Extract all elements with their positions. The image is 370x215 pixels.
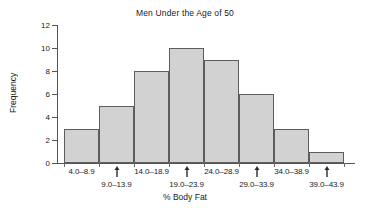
histogram-bar (309, 152, 344, 164)
chart-title: Men Under the Age of 50 (0, 8, 370, 18)
y-tick-label: 10 (41, 44, 50, 53)
y-axis-title: Frequency (6, 53, 20, 133)
bin-pointer-arrow-icon (183, 166, 190, 177)
x-axis-spine (57, 163, 355, 164)
x-tick-mark (99, 163, 100, 167)
histogram-bar (204, 60, 239, 164)
plot-area: 024681012 (57, 25, 355, 163)
y-tick-mark (52, 25, 57, 26)
bin-label: 24.0–28.9 (204, 167, 239, 176)
bin-pointer-arrow-icon (113, 166, 120, 177)
bin-label: 39.0–43.9 (309, 180, 344, 189)
bin-label: 9.0–13.9 (101, 180, 131, 189)
y-tick-label: 4 (46, 113, 50, 122)
y-axis-spine (57, 25, 58, 163)
y-tick-mark (52, 140, 57, 141)
bin-pointer-arrow-icon (253, 166, 260, 177)
y-tick-label: 0 (46, 159, 50, 168)
bin-label: 29.0–33.9 (239, 180, 274, 189)
histogram-bar (64, 129, 99, 164)
x-axis-title: % Body Fat (0, 192, 370, 202)
histogram-bar (274, 129, 309, 164)
y-tick-mark (52, 71, 57, 72)
histogram-figure: Men Under the Age of 50 Frequency 024681… (0, 0, 370, 215)
y-tick-label: 2 (46, 136, 50, 145)
bin-pointer-arrow-icon (323, 166, 330, 177)
y-tick-mark (52, 163, 57, 164)
histogram-bar (169, 48, 204, 163)
bin-label: 4.0–8.9 (69, 167, 95, 176)
histogram-bar (134, 71, 169, 163)
y-tick-label: 8 (46, 67, 50, 76)
y-tick-mark (52, 48, 57, 49)
histogram-bar (239, 94, 274, 163)
bin-label: 19.0–23.9 (169, 180, 204, 189)
bin-label: 34.0–38.9 (274, 167, 309, 176)
bin-label: 14.0–18.9 (134, 167, 169, 176)
y-tick-label: 12 (41, 21, 50, 30)
y-tick-mark (52, 94, 57, 95)
y-tick-label: 6 (46, 90, 50, 99)
histogram-bar (99, 106, 134, 164)
x-tick-mark (344, 163, 345, 167)
x-tick-mark (64, 163, 65, 167)
y-tick-mark (52, 117, 57, 118)
